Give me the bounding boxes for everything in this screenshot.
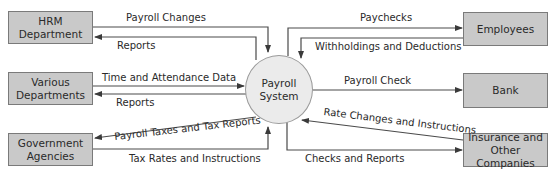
entity-label: Insurance and Other Companies [464,131,547,170]
entity-label: HRM Department [19,15,83,41]
flow-label-withholdings: Withholdings and Deductions [315,41,462,52]
entity-bank: Bank [463,73,548,108]
entity-label: Bank [492,84,518,97]
flow-label-checks-reports: Checks and Reports [305,153,405,164]
flow-label-hrm-reports: Reports [117,40,155,51]
entity-employees: Employees [463,12,548,46]
flow-label-time-attendance: Time and Attendance Data [102,72,236,83]
entity-various-departments: Various Departments [8,72,93,105]
entity-label: Employees [477,23,534,36]
flow-label-payroll-check: Payroll Check [344,75,411,86]
process-label: Payroll System [259,77,298,103]
flow-label-dept-reports: Reports [116,97,154,108]
entity-hrm-department: HRM Department [8,11,93,44]
flow-label-tax-rates: Tax Rates and Instructions [129,153,261,164]
entity-insurance-companies: Insurance and Other Companies [463,133,548,167]
entity-label: Various Departments [16,76,85,102]
entity-government-agencies: Government Agencies [8,133,93,166]
entity-label: Government Agencies [18,137,83,163]
payroll-context-diagram: Payroll System HRM Department Various De… [0,0,555,177]
flow-label-paychecks: Paychecks [360,12,412,23]
payroll-system-process: Payroll System [245,55,313,124]
flow-label-payroll-changes: Payroll Changes [126,12,206,23]
